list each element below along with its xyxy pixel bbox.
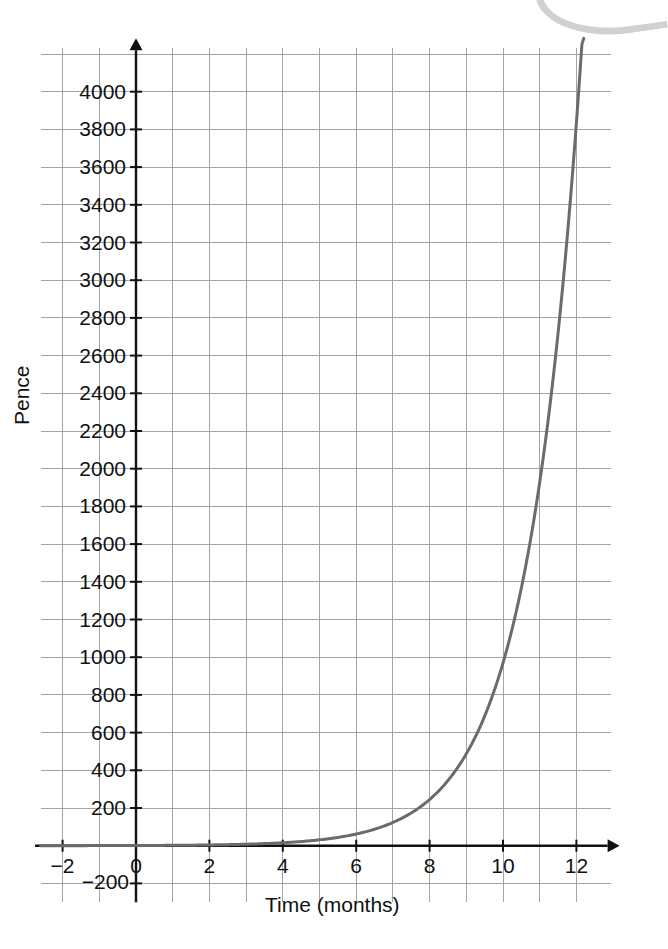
y-axis-tick-label: 2600 — [79, 345, 126, 366]
y-axis-tick-label: 600 — [91, 722, 126, 743]
y-axis-tick-label: 1600 — [79, 533, 126, 554]
y-axis-tick-label: 200 — [91, 797, 126, 818]
y-axis-tick-label: 3600 — [79, 156, 126, 177]
x-axis-tick-label: −2 — [43, 855, 83, 876]
grid-layer — [41, 48, 612, 902]
y-axis-tick-label: 3000 — [79, 269, 126, 290]
x-axis-tick-label: 0 — [116, 855, 156, 876]
y-axis-tick-label: 2000 — [79, 458, 126, 479]
y-axis-tick-label: 1800 — [79, 495, 126, 516]
x-axis-title: Time (months) — [265, 893, 400, 917]
y-axis-title: Pence — [10, 365, 34, 425]
x-axis-tick-label: 6 — [336, 855, 376, 876]
y-axis-tick-label: 1400 — [79, 571, 126, 592]
x-axis-tick-label: 8 — [410, 855, 450, 876]
y-axis-tick-label: 4000 — [79, 81, 126, 102]
x-axis-tick-label: 2 — [189, 855, 229, 876]
y-axis-tick-label: 1000 — [79, 646, 126, 667]
x-axis-tick-label: 10 — [483, 855, 523, 876]
y-axis-tick-label: 3200 — [79, 232, 126, 253]
y-axis-tick-label: 2800 — [79, 307, 126, 328]
y-axis-tick-label: 400 — [91, 759, 126, 780]
x-axis-tick-label: 12 — [556, 855, 596, 876]
y-axis-tick-label: 800 — [91, 684, 126, 705]
y-axis-tick-label: 2400 — [79, 382, 126, 403]
y-axis-tick-label: 2200 — [79, 420, 126, 441]
x-axis-tick-label: 4 — [263, 855, 303, 876]
y-axis-tick-label: 3400 — [79, 194, 126, 215]
y-axis-tick-label: 3800 — [79, 118, 126, 139]
y-axis-tick-label: 1200 — [79, 609, 126, 630]
